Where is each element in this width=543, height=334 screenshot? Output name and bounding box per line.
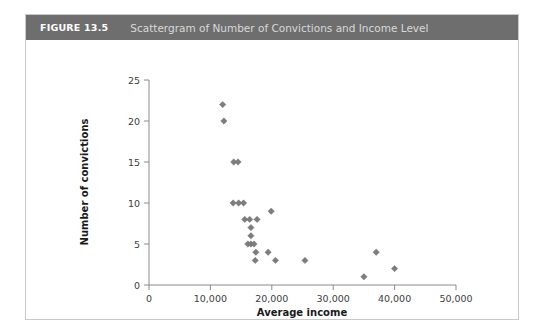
x-axis-title: Average income	[257, 307, 348, 318]
data-point	[248, 224, 254, 230]
data-point	[235, 159, 241, 165]
data-point	[248, 233, 254, 239]
data-point	[219, 101, 225, 107]
data-point	[272, 257, 278, 263]
scatterplot-region: 0510152025 010,00020,00030,00040,00050,0…	[26, 40, 518, 320]
x-tick-label: 20,000	[255, 293, 288, 304]
y-tick-label: 15	[128, 157, 140, 168]
data-point	[221, 118, 227, 124]
data-point	[265, 249, 271, 255]
scatterplot-svg: 0510152025 010,00020,00030,00040,00050,0…	[26, 40, 518, 320]
y-tick-label: 25	[128, 75, 140, 86]
x-tick-label: 40,000	[378, 293, 411, 304]
y-tick-label: 20	[128, 116, 140, 127]
y-axis-title: Number of convictions	[79, 119, 90, 246]
data-point	[240, 200, 246, 206]
x-axis-ticks: 010,00020,00030,00040,00050,000	[146, 285, 473, 304]
data-point-group	[219, 101, 397, 280]
figure-number-label: FIGURE 13.5	[40, 22, 108, 33]
y-tick-label: 5	[134, 239, 140, 250]
x-tick-label: 0	[146, 293, 152, 304]
data-point	[253, 249, 259, 255]
data-point	[391, 265, 397, 271]
figure-header-band: FIGURE 13.5 Scattergram of Number of Con…	[26, 15, 518, 40]
data-point	[246, 216, 252, 222]
data-point	[361, 274, 367, 280]
x-tick-label: 10,000	[194, 293, 227, 304]
y-tick-label: 0	[134, 280, 140, 291]
data-point	[373, 249, 379, 255]
y-axis-ticks: 0510152025	[128, 75, 149, 291]
y-tick-label: 10	[128, 198, 140, 209]
data-point	[254, 216, 260, 222]
x-tick-label: 30,000	[317, 293, 350, 304]
figure-title-label: Scattergram of Number of Convictions and…	[130, 22, 428, 34]
figure-card: FIGURE 13.5 Scattergram of Number of Con…	[25, 14, 519, 320]
data-point	[268, 208, 274, 214]
data-point	[252, 257, 258, 263]
x-tick-label: 50,000	[439, 293, 472, 304]
data-point	[302, 257, 308, 263]
